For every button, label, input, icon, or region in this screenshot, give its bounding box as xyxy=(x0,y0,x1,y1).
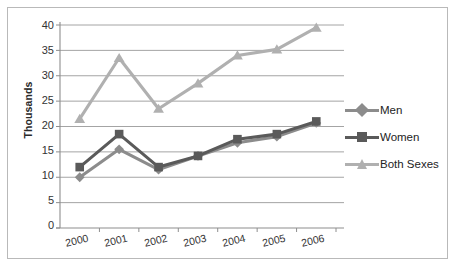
legend-item-both-sexes[interactable]: Both Sexes xyxy=(345,150,451,177)
legend-marker-diamond-icon xyxy=(345,103,379,117)
chart-legend: Men Women Both Sexes xyxy=(345,96,451,177)
data-series-group xyxy=(74,22,321,182)
gridlines xyxy=(60,25,344,203)
marker-square xyxy=(115,130,124,139)
legend-label: Women xyxy=(379,131,419,143)
marker-square xyxy=(233,135,242,144)
legend-marker-triangle-icon xyxy=(345,157,379,171)
legend-label: Both Sexes xyxy=(379,158,439,170)
series-women xyxy=(75,117,320,171)
legend-marker-square-icon xyxy=(345,130,379,144)
marker-triangle xyxy=(114,53,125,62)
marker-triangle xyxy=(311,22,322,31)
legend-item-women[interactable]: Women xyxy=(345,123,451,150)
marker-square xyxy=(75,163,84,172)
line-chart: Thousands 40 35 30 25 20 15 10 5 0 20002… xyxy=(0,0,456,268)
series-line xyxy=(80,28,317,119)
marker-square xyxy=(194,152,203,161)
series-men xyxy=(75,118,321,182)
marker-square xyxy=(154,163,163,172)
legend-label: Men xyxy=(379,104,402,116)
legend-item-men[interactable]: Men xyxy=(345,96,451,123)
marker-square xyxy=(312,117,321,126)
marker-square xyxy=(273,130,282,139)
series-both-sexes xyxy=(74,22,321,123)
chart-screenshot: Thousands 40 35 30 25 20 15 10 5 0 20002… xyxy=(0,0,456,268)
